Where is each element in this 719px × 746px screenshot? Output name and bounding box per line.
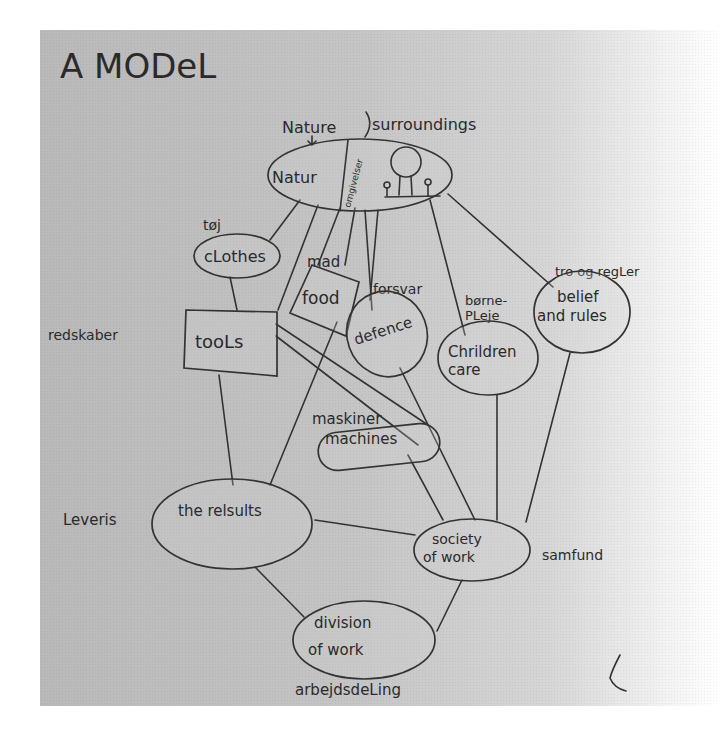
belief-label-2: and rules — [537, 307, 607, 325]
results-ellipse — [152, 479, 312, 569]
division-ellipse — [293, 601, 435, 679]
clothes-label: cLothes — [204, 247, 266, 266]
edge-machines-society — [408, 455, 443, 520]
food-label: food — [302, 288, 340, 308]
node-children-care: børne- PLeje Chrildren care — [438, 293, 538, 395]
nature-label: Natur — [272, 168, 317, 187]
edge-nature-food-2 — [345, 208, 355, 265]
edge-tools-results — [219, 375, 233, 485]
tools-label: tooLs — [195, 331, 244, 352]
children-label-1: Chrildren — [448, 343, 517, 361]
annotation-leveris: Leveris — [63, 511, 117, 529]
division-label-2: of work — [308, 641, 364, 659]
society-label-2: of work — [423, 549, 476, 565]
annotation-borne-1: børne- — [465, 293, 508, 308]
children-label-2: care — [448, 361, 481, 379]
annotation-redskaber: redskaber — [48, 327, 118, 343]
node-results: Leveris the relsults — [63, 479, 312, 569]
edge-belief-society — [526, 353, 570, 522]
annotation-arbejdsdeling: arbejdsdeLing — [295, 681, 401, 699]
edge-society-division — [437, 580, 462, 631]
bracket-mark — [365, 112, 370, 137]
belief-label-1: belief — [557, 288, 599, 306]
edge-clothes-tools — [230, 277, 237, 310]
node-belief-rules: tro og regLer belief and rules — [534, 264, 640, 353]
node-nature: Natur omgivelser — [268, 139, 452, 211]
concept-diagram: A MODeL — [0, 0, 719, 746]
node-division-work: division of work arbejdsdeLing — [293, 601, 435, 699]
node-clothes: tøj cLothes — [194, 217, 280, 278]
edge-results-society — [315, 520, 415, 535]
node-tools: redskaber tooLs — [48, 310, 277, 376]
edge-nature-belief — [448, 194, 553, 287]
edge-nature-children — [430, 200, 465, 335]
results-label: the relsults — [178, 502, 262, 520]
node-machines: maskiner machines — [312, 410, 442, 472]
division-label-1: division — [314, 614, 371, 632]
edge-results-division — [255, 567, 304, 617]
annotation-samfund: samfund — [542, 547, 603, 563]
machines-label: machines — [325, 430, 397, 448]
society-label-1: society — [432, 531, 482, 547]
annotation-surroundings: surroundings — [372, 115, 476, 134]
pencil-mark — [610, 655, 626, 691]
node-society-work: society of work samfund — [414, 519, 603, 581]
annotation-toj: tøj — [203, 217, 221, 233]
edge-nature-clothes — [270, 200, 300, 240]
annotation-maskiner: maskiner — [312, 410, 382, 428]
diagram-title: A MODeL — [60, 46, 216, 86]
annotation-nature: Nature — [282, 118, 336, 137]
